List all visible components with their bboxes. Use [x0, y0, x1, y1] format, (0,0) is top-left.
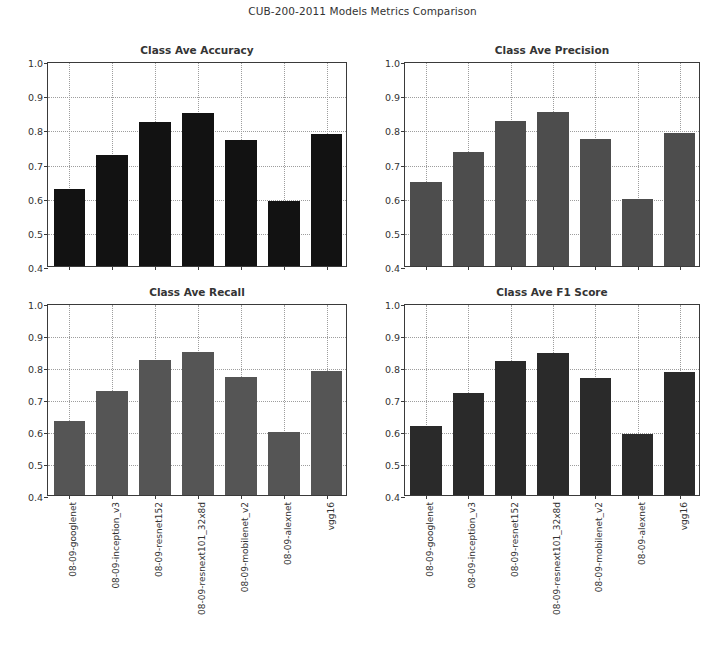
- bar: [664, 372, 695, 495]
- y-tick-mark: [401, 369, 405, 370]
- x-tick-label: vgg16: [679, 502, 689, 530]
- x-tick-label: 08-09-mobilenet_v2: [594, 502, 604, 592]
- y-tick-mark: [401, 465, 405, 466]
- bar: [495, 361, 526, 495]
- bar: [580, 378, 611, 495]
- x-tick-label: 08-09-googlenet: [425, 502, 435, 577]
- x-tick-mark: [680, 495, 681, 499]
- x-tick-label: 08-09-inception_v3: [467, 502, 477, 589]
- plot-area-4: 1.00.90.80.70.60.50.408-09-googlenet08-0…: [404, 304, 700, 496]
- x-tick-mark: [595, 495, 596, 499]
- x-tick-label: 08-09-resnext101_32x8d: [552, 502, 562, 615]
- y-tick-label: 0.4: [385, 492, 400, 503]
- x-tick-mark: [426, 495, 427, 499]
- y-tick-mark: [401, 433, 405, 434]
- x-tick-label: 08-09-alexnet: [637, 502, 647, 565]
- y-tick-mark: [401, 401, 405, 402]
- y-tick-label: 0.8: [385, 364, 400, 375]
- bar: [453, 393, 484, 495]
- x-tick-label: 08-09-resnet152: [510, 502, 520, 577]
- x-tick-mark: [468, 495, 469, 499]
- bar: [622, 434, 653, 495]
- y-tick-label: 0.7: [385, 396, 400, 407]
- subplot-4: Class Ave F1 Score1.00.90.80.70.60.50.40…: [0, 0, 725, 658]
- bar: [410, 426, 441, 495]
- x-tick-mark: [553, 495, 554, 499]
- y-tick-label: 1.0: [385, 300, 400, 311]
- gridline-horizontal: [405, 337, 699, 338]
- y-tick-mark: [401, 305, 405, 306]
- y-tick-label: 0.6: [385, 428, 400, 439]
- subplot-title-4: Class Ave F1 Score: [404, 286, 700, 298]
- y-tick-mark: [401, 337, 405, 338]
- y-tick-mark: [401, 497, 405, 498]
- y-tick-label: 0.5: [385, 460, 400, 471]
- figure-canvas: CUB-200-2011 Models Metrics Comparison C…: [0, 0, 725, 658]
- bar: [537, 353, 568, 495]
- y-tick-label: 0.9: [385, 332, 400, 343]
- x-tick-mark: [638, 495, 639, 499]
- x-tick-mark: [511, 495, 512, 499]
